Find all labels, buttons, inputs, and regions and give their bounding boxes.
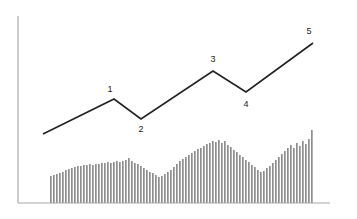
volume-bar — [185, 157, 187, 203]
wave-label-5: 5 — [306, 26, 311, 36]
volume-bar — [137, 164, 139, 203]
volume-bar — [83, 165, 85, 203]
volume-bar — [65, 170, 67, 203]
volume-bar — [98, 164, 100, 203]
volume-bar — [209, 143, 211, 203]
volume-bar — [254, 167, 256, 203]
volume-bar — [212, 141, 214, 203]
volume-bar — [167, 172, 169, 203]
volume-bar — [74, 167, 76, 203]
volume-bar — [146, 170, 148, 203]
volume-bar — [302, 141, 304, 203]
volume-bar — [215, 142, 217, 203]
volume-bar — [53, 175, 55, 203]
wave-label-3: 3 — [210, 54, 215, 64]
volume-bar — [104, 163, 106, 203]
volume-bar — [110, 163, 112, 203]
volume-bar — [56, 174, 58, 203]
volume-bar — [224, 141, 226, 203]
volume-bar — [311, 130, 313, 203]
volume-bar — [299, 146, 301, 203]
volume-bar — [239, 155, 241, 203]
volume-bar — [257, 170, 259, 203]
volume-bar — [161, 176, 163, 203]
volume-bar — [86, 165, 88, 203]
volume-bar — [245, 160, 247, 203]
volume-bar — [152, 173, 154, 203]
volume-bar — [242, 157, 244, 203]
volume-bar — [287, 148, 289, 203]
volume-bar — [221, 143, 223, 203]
volume-bar — [296, 143, 298, 203]
volume-bar — [269, 166, 271, 203]
volume-bar — [227, 145, 229, 203]
volume-bar — [194, 151, 196, 203]
volume-bar — [140, 166, 142, 203]
volume-bar — [197, 149, 199, 203]
volume-bar — [119, 162, 121, 203]
volume-bar — [290, 145, 292, 203]
volume-bar — [77, 166, 79, 203]
volume-bar — [200, 148, 202, 203]
volume-bar — [128, 158, 130, 203]
volume-bar — [248, 162, 250, 203]
volume-bar — [236, 152, 238, 203]
volume-bar — [143, 168, 145, 203]
volume-bar — [134, 163, 136, 203]
volume-bar — [62, 172, 64, 203]
volume-bar — [284, 151, 286, 203]
volume-bar — [164, 174, 166, 203]
volume-bar — [179, 161, 181, 203]
volume-bar — [203, 146, 205, 203]
volume-bar — [266, 168, 268, 203]
volume-bar — [173, 167, 175, 203]
volume-bar — [95, 164, 97, 203]
volume-bar — [230, 147, 232, 203]
volume-bar — [263, 171, 265, 203]
volume-bar — [278, 157, 280, 203]
volume-bar — [176, 164, 178, 203]
volume-bar — [101, 163, 103, 203]
chart-canvas: 12345 — [0, 0, 357, 219]
volume-bar — [188, 155, 190, 203]
volume-bar — [155, 175, 157, 203]
volume-bar — [68, 169, 70, 203]
volume-bar — [149, 172, 151, 203]
volume-bar — [131, 161, 133, 203]
volume-bar — [113, 162, 115, 203]
volume-bar — [191, 153, 193, 203]
volume-bar — [218, 140, 220, 203]
volume-bar — [80, 166, 82, 203]
wave-label-1: 1 — [107, 84, 112, 94]
volume-bar — [92, 165, 94, 203]
chart-figure: 12345 — [0, 0, 357, 219]
volume-bar — [308, 139, 310, 203]
volume-bar — [125, 160, 127, 203]
volume-bar — [89, 164, 91, 203]
volume-bar — [233, 150, 235, 203]
wave-label-4: 4 — [243, 99, 248, 109]
volume-bar — [251, 165, 253, 203]
volume-bar — [272, 163, 274, 203]
volume-bar — [107, 162, 109, 203]
volume-bar — [206, 144, 208, 203]
volume-bar — [275, 160, 277, 203]
volume-bar — [59, 173, 61, 203]
volume-bar — [122, 161, 124, 203]
volume-bar — [293, 148, 295, 203]
volume-bar — [50, 176, 52, 203]
volume-bar — [71, 168, 73, 203]
volume-bar — [281, 154, 283, 203]
volume-bar — [170, 170, 172, 203]
volume-bar — [158, 177, 160, 203]
volume-bar — [182, 159, 184, 203]
volume-bar — [305, 144, 307, 203]
volume-bar — [260, 172, 262, 203]
wave-label-2: 2 — [138, 124, 143, 134]
volume-bar — [116, 161, 118, 203]
